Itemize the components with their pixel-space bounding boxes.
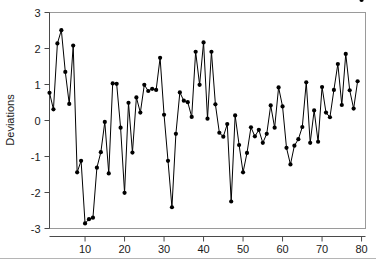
data-point bbox=[158, 56, 162, 60]
data-point bbox=[261, 141, 265, 145]
y-tick-label: -3 bbox=[31, 223, 41, 235]
data-point bbox=[146, 89, 150, 93]
data-point bbox=[79, 159, 83, 163]
data-point bbox=[55, 41, 59, 45]
data-point bbox=[237, 143, 241, 147]
chart-container: -3-2-10123 1020304050607080 Deviations bbox=[0, 0, 376, 261]
data-point bbox=[138, 110, 142, 114]
chart-background bbox=[0, 0, 376, 261]
data-point bbox=[352, 107, 356, 111]
data-point bbox=[51, 107, 55, 111]
data-point bbox=[71, 44, 75, 48]
data-point bbox=[119, 126, 123, 130]
data-point bbox=[75, 170, 79, 174]
data-point bbox=[91, 216, 95, 220]
data-point bbox=[241, 170, 245, 174]
data-point bbox=[257, 128, 261, 132]
x-tick-label: 20 bbox=[118, 243, 130, 255]
data-point bbox=[134, 95, 138, 99]
data-point bbox=[221, 135, 225, 139]
data-point bbox=[122, 191, 126, 195]
data-point bbox=[170, 205, 174, 209]
data-point bbox=[348, 88, 352, 92]
x-tick-label: 50 bbox=[237, 243, 249, 255]
data-point bbox=[328, 115, 332, 119]
data-point bbox=[304, 80, 308, 84]
data-point bbox=[288, 162, 292, 166]
data-point bbox=[225, 122, 229, 126]
data-point bbox=[154, 88, 158, 92]
data-point bbox=[209, 50, 213, 54]
data-point bbox=[213, 102, 217, 106]
data-point bbox=[308, 141, 312, 145]
data-point bbox=[217, 131, 221, 135]
data-point bbox=[67, 102, 71, 106]
data-point bbox=[142, 83, 146, 87]
x-tick-label: 70 bbox=[316, 243, 328, 255]
data-point bbox=[229, 199, 233, 203]
data-point bbox=[115, 82, 119, 86]
data-point bbox=[265, 132, 269, 136]
data-point bbox=[292, 144, 296, 148]
data-point bbox=[344, 52, 348, 56]
data-point bbox=[99, 150, 103, 154]
data-point bbox=[63, 70, 67, 74]
y-tick-label: 2 bbox=[34, 43, 40, 55]
data-point bbox=[182, 99, 186, 103]
data-point bbox=[233, 113, 237, 117]
data-point bbox=[205, 117, 209, 121]
data-point bbox=[277, 85, 281, 89]
y-tick-label: 0 bbox=[34, 115, 40, 127]
data-point bbox=[111, 81, 115, 85]
data-point bbox=[273, 126, 277, 130]
data-point bbox=[324, 110, 328, 114]
data-point bbox=[130, 150, 134, 154]
data-point bbox=[312, 108, 316, 112]
data-point bbox=[59, 28, 63, 32]
x-tick-label: 40 bbox=[197, 243, 209, 255]
data-point bbox=[186, 100, 190, 104]
data-point bbox=[269, 103, 273, 107]
data-point bbox=[253, 134, 257, 138]
deviations-line-chart: -3-2-10123 1020304050607080 Deviations bbox=[0, 0, 376, 261]
data-point bbox=[47, 91, 51, 95]
data-point bbox=[194, 50, 198, 54]
data-point bbox=[166, 159, 170, 163]
data-point bbox=[356, 79, 360, 83]
data-point bbox=[87, 217, 91, 221]
data-point bbox=[103, 120, 107, 124]
y-tick-label: -1 bbox=[31, 151, 41, 163]
data-point bbox=[249, 125, 253, 129]
x-tick-label: 60 bbox=[276, 243, 288, 255]
data-point bbox=[107, 171, 111, 175]
data-point bbox=[336, 62, 340, 66]
data-point bbox=[178, 90, 182, 94]
data-point bbox=[190, 115, 194, 119]
x-tick-label: 80 bbox=[355, 243, 367, 255]
y-tick-label: 3 bbox=[34, 7, 40, 19]
data-point bbox=[126, 101, 130, 105]
y-axis-label: Deviations bbox=[4, 94, 16, 146]
data-point bbox=[201, 40, 205, 44]
data-point bbox=[245, 151, 249, 155]
data-point bbox=[174, 132, 178, 136]
data-point bbox=[150, 87, 154, 91]
x-tick-label: 30 bbox=[158, 243, 170, 255]
y-tick-label: 1 bbox=[34, 79, 40, 91]
data-point bbox=[95, 166, 99, 170]
y-tick-label: -2 bbox=[31, 187, 41, 199]
data-point bbox=[296, 137, 300, 141]
data-point bbox=[280, 104, 284, 108]
data-point bbox=[162, 113, 166, 117]
data-point bbox=[316, 140, 320, 144]
data-point bbox=[198, 83, 202, 87]
data-point bbox=[320, 85, 324, 89]
data-point bbox=[284, 146, 288, 150]
data-point bbox=[332, 88, 336, 92]
data-point bbox=[340, 103, 344, 107]
x-tick-label: 10 bbox=[79, 243, 91, 255]
data-point bbox=[83, 221, 87, 225]
data-point bbox=[300, 125, 304, 129]
